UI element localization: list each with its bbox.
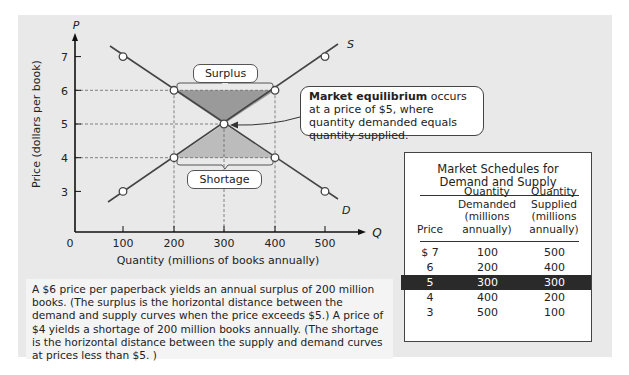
x-ticks bbox=[123, 226, 325, 232]
y-axis-title: Price (dollars per book) bbox=[30, 60, 43, 188]
shortage-area bbox=[174, 124, 275, 158]
x-axis-title: Quantity (millions of books annually) bbox=[117, 254, 320, 267]
x-tick-labels: 0 100 200 300 400 500 bbox=[67, 237, 336, 250]
y-tick-labels: 7 6 5 4 3 bbox=[61, 51, 68, 199]
callout-bold: Market equilibrium bbox=[309, 90, 427, 103]
table-row: 3 500 100 bbox=[405, 305, 591, 320]
header-price: Price bbox=[411, 223, 449, 236]
y-ticks bbox=[75, 57, 81, 192]
surplus-label: Surplus bbox=[193, 64, 258, 83]
header-supplied: Quantity Supplied (millions annually) bbox=[521, 185, 587, 235]
svg-text:5: 5 bbox=[61, 118, 68, 131]
y-axis-arrow-icon bbox=[72, 33, 78, 41]
shortage-brace-icon bbox=[177, 160, 273, 169]
svg-text:400: 400 bbox=[265, 237, 286, 250]
svg-text:100: 100 bbox=[113, 237, 134, 250]
y-axis-symbol: P bbox=[73, 19, 80, 32]
header-divider bbox=[420, 241, 579, 242]
surplus-area bbox=[174, 90, 275, 124]
equilibrium-arrow bbox=[234, 117, 300, 125]
header-demanded: Quantity Demanded (millions annually) bbox=[455, 185, 519, 235]
supply-curve-label: S bbox=[347, 38, 354, 51]
table-row: 6 200 400 bbox=[405, 260, 591, 275]
svg-text:500: 500 bbox=[315, 237, 336, 250]
svg-text:6: 6 bbox=[61, 85, 68, 98]
market-schedule-table: Market Schedules for Demand and Supply P… bbox=[404, 152, 592, 342]
equilibrium-callout: Market equilibrium occurs at a price of … bbox=[300, 86, 484, 136]
svg-text:4: 4 bbox=[61, 152, 68, 165]
table-body: $ 7 100 500 6 200 400 5 300 300 4 400 20… bbox=[405, 245, 591, 320]
svg-text:7: 7 bbox=[61, 51, 68, 64]
x-axis-symbol: Q bbox=[372, 226, 381, 240]
x-axis-arrow-icon bbox=[358, 229, 366, 235]
figure-caption: A $6 price per paperback yields an annua… bbox=[26, 279, 393, 359]
demand-curve-label: D bbox=[342, 204, 350, 217]
svg-text:200: 200 bbox=[164, 237, 185, 250]
svg-text:3: 3 bbox=[61, 186, 68, 199]
table-row: $ 7 100 500 bbox=[405, 245, 591, 260]
table-row-equilibrium: 5 300 300 bbox=[401, 275, 591, 290]
svg-text:0: 0 bbox=[67, 237, 74, 250]
shortage-label: Shortage bbox=[187, 170, 262, 189]
table-row: 4 400 200 bbox=[405, 290, 591, 305]
svg-text:300: 300 bbox=[214, 237, 235, 250]
